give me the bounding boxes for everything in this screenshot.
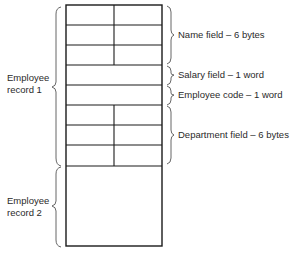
department-field-label: Department field – 6 bytes [178,129,289,140]
record-1-label-line1: Employee [7,72,49,83]
employee-code-label: Employee code – 1 word [178,89,283,100]
record-layout-diagram: Employee record 1 Employee record 2 Name… [0,0,295,254]
salary-field-brace [167,66,174,85]
record-2-label-line2: record 2 [7,207,42,218]
record-1-brace [52,7,61,166]
record-2-brace [52,167,61,247]
department-field-brace [167,106,174,164]
salary-field-label: Salary field – 1 word [178,69,264,80]
employee-code-brace [167,86,174,105]
name-field-brace [167,6,174,64]
record-2-label-line1: Employee [7,195,49,206]
record-1-label-line2: record 1 [7,84,42,95]
name-field-label: Name field – 6 bytes [178,29,265,40]
